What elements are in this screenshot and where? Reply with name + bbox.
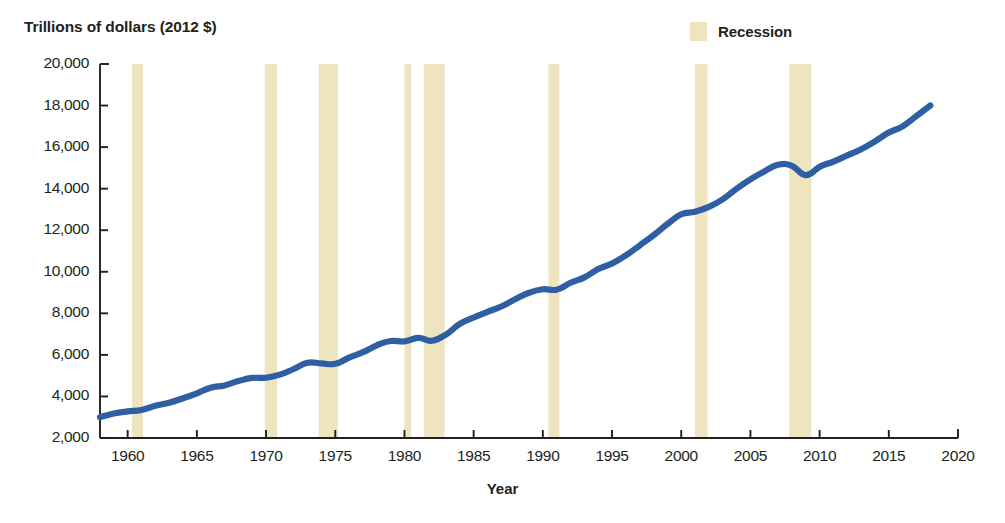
- x-tick-label: 1965: [167, 447, 227, 465]
- recession-band: [548, 64, 559, 438]
- x-tick-label: 1960: [98, 447, 158, 465]
- x-tick-label: 1970: [236, 447, 296, 465]
- recession-band: [695, 64, 707, 438]
- y-tick-label: 18,000: [11, 96, 89, 114]
- x-tick-label: 2015: [859, 447, 919, 465]
- x-axis-title: Year: [0, 480, 1005, 497]
- x-tick-label: 2020: [928, 447, 988, 465]
- x-tick-label: 2000: [651, 447, 711, 465]
- x-tick-label: 2005: [720, 447, 780, 465]
- recession-band: [265, 64, 277, 438]
- y-tick-label: 20,000: [11, 54, 89, 72]
- y-tick-label: 2,000: [11, 428, 89, 446]
- x-tick-label: 1985: [444, 447, 504, 465]
- plot-area: 2,0004,0006,0008,00010,00012,00014,00016…: [0, 0, 1005, 523]
- recession-band: [319, 64, 338, 438]
- recession-band: [424, 64, 445, 438]
- y-tick-label: 8,000: [11, 303, 89, 321]
- x-tick-label: 1980: [374, 447, 434, 465]
- recession-band: [132, 64, 143, 438]
- x-tick-label: 1995: [582, 447, 642, 465]
- y-tick-label: 10,000: [11, 262, 89, 280]
- y-tick-label: 4,000: [11, 386, 89, 404]
- plot-canvas: [0, 0, 1005, 523]
- y-tick-label: 12,000: [11, 220, 89, 238]
- gdp-recession-chart: Trillions of dollars (2012 $) Recession …: [0, 0, 1005, 523]
- recession-band: [789, 64, 811, 438]
- y-tick-label: 6,000: [11, 345, 89, 363]
- y-tick-label: 14,000: [11, 179, 89, 197]
- recession-band: [404, 64, 411, 438]
- y-tick-label: 16,000: [11, 137, 89, 155]
- x-tick-label: 1975: [305, 447, 365, 465]
- x-tick-label: 2010: [790, 447, 850, 465]
- x-tick-label: 1990: [513, 447, 573, 465]
